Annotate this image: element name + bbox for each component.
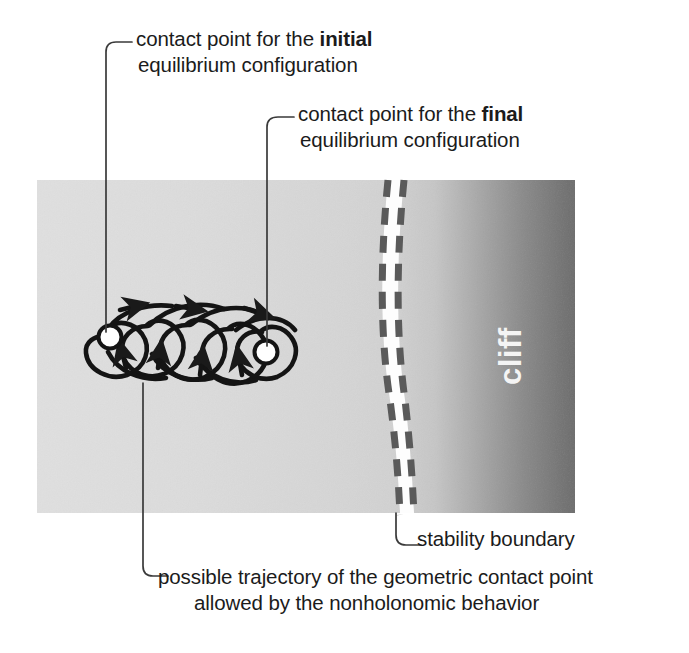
callout-stability-label: stability boundary (417, 527, 575, 550)
callout-traj-line1: possible trajectory of the geometric con… (158, 565, 593, 588)
callout-final-line1-prefix: contact point for the (298, 102, 482, 125)
callout-possible-trajectory: possible trajectory of the geometric con… (158, 564, 593, 616)
callout-initial-line1-prefix: contact point for the (136, 27, 320, 50)
callout-traj-line2: allowed by the nonholonomic behavior (158, 590, 593, 616)
callout-initial-line1-bold: initial (320, 27, 373, 50)
callout-stability-boundary: stability boundary (417, 526, 575, 552)
final-contact-point-marker (255, 341, 278, 364)
callout-final-line1-bold: final (482, 102, 524, 125)
initial-contact-point-marker (99, 326, 122, 349)
cliff-label-text: cliff (493, 327, 528, 385)
nonholonomic-trajectory-diagram: cliff (0, 0, 689, 653)
callout-initial-equilibrium: contact point for the initial equilibriu… (136, 26, 372, 78)
callout-final-equilibrium: contact point for the final equilibrium … (298, 101, 523, 153)
callout-initial-line2: equilibrium configuration (136, 52, 372, 78)
callout-final-line2: equilibrium configuration (298, 127, 523, 153)
cliff-text-label: cliff (493, 327, 528, 385)
